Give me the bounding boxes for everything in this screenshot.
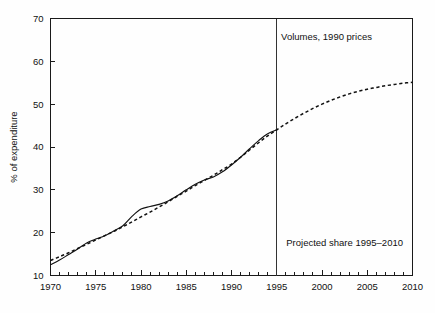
line-chart: 10203040506070 1970197519801985199019952… [0, 0, 435, 313]
x-tick-label: 1980 [130, 281, 151, 292]
x-axis-tick-labels: 197019751980198519901995200020052010 [40, 281, 423, 292]
y-tick-label: 40 [33, 141, 44, 152]
annotation-projected-share: Projected share 1995–2010 [286, 237, 403, 248]
chart-figure: 10203040506070 1970197519801985199019952… [0, 0, 435, 313]
chart-background [0, 0, 435, 313]
x-tick-label: 1975 [85, 281, 106, 292]
x-tick-label: 2005 [357, 281, 378, 292]
x-tick-label: 2000 [311, 281, 332, 292]
x-tick-label: 1970 [40, 281, 61, 292]
x-tick-label: 1985 [176, 281, 197, 292]
y-tick-label: 30 [33, 184, 44, 195]
x-tick-label: 2010 [402, 281, 423, 292]
y-tick-label: 50 [33, 99, 44, 110]
annotation-volumes-1990-prices: Volumes, 1990 prices [281, 31, 372, 42]
y-tick-label: 10 [33, 270, 44, 281]
y-tick-label: 70 [33, 13, 44, 24]
y-tick-label: 20 [33, 227, 44, 238]
x-tick-label: 1995 [266, 281, 287, 292]
y-tick-label: 60 [33, 56, 44, 67]
x-tick-label: 1990 [221, 281, 242, 292]
y-axis-title: % of expenditure [8, 111, 19, 182]
